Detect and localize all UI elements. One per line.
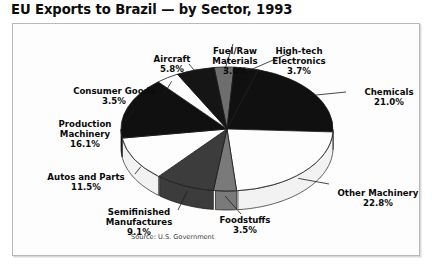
slice-label-fuel-raw-materials-pct: 3.0% bbox=[205, 66, 265, 76]
slice-label-foodstuffs-name: Foodstuffs bbox=[220, 215, 271, 225]
slice-label-production-machinery-line2: Machinery bbox=[48, 129, 122, 139]
slice-label-high-tech-electronics-pct: 3.7% bbox=[264, 66, 334, 76]
slice-label-autos-and-parts-pct: 11.5% bbox=[36, 182, 136, 192]
slice-label-production-machinery-line1: Production bbox=[59, 119, 112, 129]
pie-slice-side-foodstuffs bbox=[215, 191, 236, 210]
slice-label-semifinished-manufactures-line1: Semifinished bbox=[108, 207, 171, 217]
slice-label-autos-and-parts: Autos and Parts 11.5% bbox=[36, 172, 136, 192]
slice-label-other-machinery-name: Other Machinery bbox=[338, 188, 419, 198]
slice-label-aircraft-pct: 5.8% bbox=[144, 64, 200, 74]
slice-label-chemicals-name: Chemicals bbox=[364, 87, 413, 97]
source-note: Source: U.S. Government bbox=[131, 233, 214, 241]
slice-label-consumer-goods: Consumer Goods 3.5% bbox=[67, 86, 161, 106]
slice-label-fuel-raw-materials-line2: Materials bbox=[205, 56, 265, 66]
slice-label-fuel-raw-materials: Fuel/Raw Materials 3.0% bbox=[205, 46, 265, 77]
chart-frame: Aircraft 5.8% Fuel/Raw Materials 3.0% Hi… bbox=[12, 23, 420, 256]
slice-label-chemicals-pct: 21.0% bbox=[350, 97, 428, 107]
slice-label-other-machinery: Other Machinery 22.8% bbox=[328, 188, 428, 208]
slice-label-high-tech-electronics-line2: Electronics bbox=[264, 56, 334, 66]
slice-label-fuel-raw-materials-line1: Fuel/Raw bbox=[213, 46, 257, 56]
slice-label-autos-and-parts-name: Autos and Parts bbox=[47, 172, 124, 182]
slice-label-consumer-goods-name: Consumer Goods bbox=[73, 86, 155, 96]
slice-label-consumer-goods-pct: 3.5% bbox=[67, 96, 161, 106]
slice-label-foodstuffs: Foodstuffs 3.5% bbox=[210, 215, 280, 235]
slice-label-high-tech-electronics-line1: High-tech bbox=[275, 46, 322, 56]
slice-label-semifinished-manufactures-line2: Manufactures bbox=[94, 217, 184, 227]
slice-label-production-machinery: Production Machinery 16.1% bbox=[48, 119, 122, 150]
slice-label-high-tech-electronics: High-tech Electronics 3.7% bbox=[264, 46, 334, 77]
page-title: EU Exports to Brazil — by Sector, 1993 bbox=[11, 2, 292, 17]
slice-label-chemicals: Chemicals 21.0% bbox=[350, 87, 428, 107]
pie-chart: Aircraft 5.8% Fuel/Raw Materials 3.0% Hi… bbox=[13, 24, 421, 257]
slice-label-aircraft-name: Aircraft bbox=[154, 54, 191, 64]
slice-label-aircraft: Aircraft 5.8% bbox=[144, 54, 200, 74]
slice-label-other-machinery-pct: 22.8% bbox=[328, 198, 428, 208]
slice-label-foodstuffs-pct: 3.5% bbox=[210, 225, 280, 235]
slice-label-production-machinery-pct: 16.1% bbox=[48, 139, 122, 149]
